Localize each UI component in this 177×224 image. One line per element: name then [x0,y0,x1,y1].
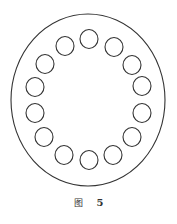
small-circle [36,55,54,74]
small-circle [26,78,44,97]
small-circles-ring [26,30,151,170]
small-circle [80,151,98,170]
small-circle [123,128,141,147]
small-circle [55,146,73,165]
caption-number: 5 [97,197,104,208]
small-circle [133,77,151,96]
caption-label: 图 [74,198,83,208]
small-circle [80,30,98,49]
small-circle [105,38,123,57]
small-circle [133,104,151,123]
figure-diagram [0,0,177,224]
small-circle [26,104,44,123]
figure-caption: 图5 [0,194,177,212]
small-circle [56,37,74,56]
small-circle [123,56,141,75]
outer-ellipse [11,14,165,186]
small-circle [35,128,53,147]
small-circle [104,146,122,165]
